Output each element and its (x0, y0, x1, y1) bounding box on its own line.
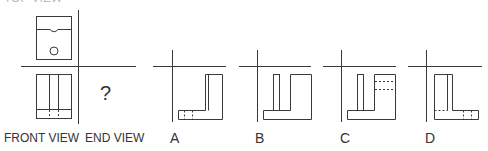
option-c-label[interactable]: C (340, 130, 350, 146)
front-view (37, 75, 72, 119)
top-view (37, 17, 72, 60)
front-view-label: FRONT VIEW (4, 131, 79, 145)
orthographic-diagram (0, 0, 488, 151)
option-b-drawing[interactable] (239, 50, 312, 122)
option-d-label[interactable]: D (425, 130, 435, 146)
option-b-label[interactable]: B (255, 130, 264, 146)
top-view-label-partial: TOP VIEW (4, 0, 62, 5)
option-a-drawing[interactable] (154, 50, 226, 122)
option-a-label[interactable]: A (170, 130, 179, 146)
unknown-end-view: ? (100, 82, 111, 105)
option-c-drawing[interactable] (323, 50, 396, 122)
end-view-label: END VIEW (85, 131, 144, 145)
option-d-drawing[interactable] (408, 50, 482, 122)
